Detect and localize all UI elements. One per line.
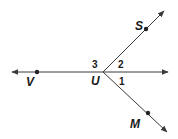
point-v — [35, 70, 39, 74]
label-m: M — [130, 117, 141, 131]
point-m — [146, 111, 150, 115]
label-s: S — [135, 19, 143, 33]
label-u: U — [91, 74, 100, 88]
angle-diagram: V S M U 3 2 1 — [0, 0, 178, 139]
angle-3-label: 3 — [92, 59, 98, 70]
ray-us — [103, 11, 164, 72]
angle-1-label: 1 — [119, 76, 125, 87]
label-v: V — [26, 75, 35, 89]
angle-2-label: 2 — [118, 59, 124, 70]
point-s — [144, 27, 148, 31]
